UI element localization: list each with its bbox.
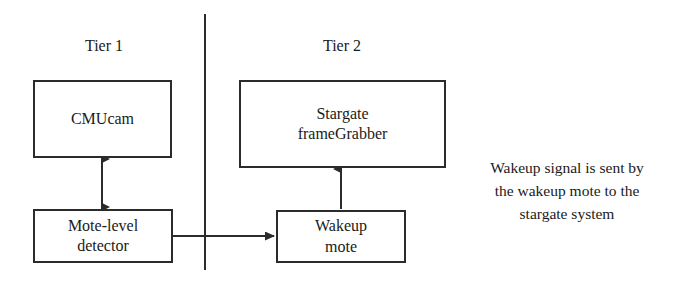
node-detector-text: Mote-level detector xyxy=(56,216,150,257)
annotation-line-2: the wakeup mote to the xyxy=(447,179,687,202)
node-mote-level-detector[interactable]: Mote-level detector xyxy=(33,209,173,263)
node-framegrabber-text: Stargate frameGrabber xyxy=(286,104,400,145)
node-cmucam[interactable]: CMUcam xyxy=(33,80,172,158)
diagram-canvas: Tier 1 Tier 2 CMUcam Stargate xyxy=(0,0,691,282)
node-wakeup-mote-text: Wakeup mote xyxy=(303,216,379,257)
node-wakeup-mote-line1: Wakeup xyxy=(309,216,373,236)
tier-1-label: Tier 1 xyxy=(44,38,164,54)
tier-2-label: Tier 2 xyxy=(282,38,402,54)
node-wakeup-mote[interactable]: Wakeup mote xyxy=(276,210,406,263)
node-wakeup-mote-line2: mote xyxy=(309,237,373,257)
node-detector-line1: Mote-level xyxy=(62,216,144,236)
node-detector-line2: detector xyxy=(62,236,144,256)
node-framegrabber-line1: Stargate xyxy=(292,104,394,124)
annotation-line-3: stargate system xyxy=(447,202,687,225)
node-stargate-framegrabber[interactable]: Stargate frameGrabber xyxy=(239,80,446,168)
tier-divider-line xyxy=(204,14,206,270)
node-framegrabber-line2: frameGrabber xyxy=(292,124,394,144)
annotation-wakeup-signal: Wakeup signal is sent by the wakeup mote… xyxy=(447,156,687,225)
node-cmucam-label: CMUcam xyxy=(65,109,140,129)
annotation-line-1: Wakeup signal is sent by xyxy=(447,156,687,179)
